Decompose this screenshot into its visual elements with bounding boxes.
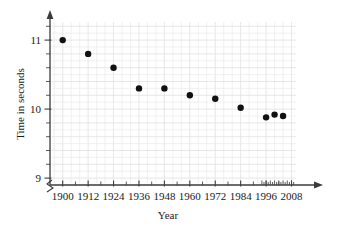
y-axis-tick-label: 11 <box>30 34 41 46</box>
data-point <box>237 105 243 111</box>
data-point <box>263 114 269 120</box>
x-axis-tick-label: 1936 <box>128 190 151 202</box>
data-point <box>60 37 66 43</box>
data-point <box>85 51 91 57</box>
x-axis-arrow-icon <box>314 182 323 189</box>
x-axis-tick-label: 1972 <box>204 190 226 202</box>
data-point <box>280 113 286 119</box>
data-point <box>212 96 218 102</box>
x-axis-tick-label: 1960 <box>179 190 202 202</box>
data-point <box>136 85 142 91</box>
y-axis-arrow-icon <box>47 10 54 19</box>
data-point <box>110 64 116 70</box>
scatter-plot: 9101119001912192419361948196019721984199… <box>0 0 342 230</box>
x-axis-tick-label: 1900 <box>52 190 75 202</box>
tick-marks-group <box>45 26 294 186</box>
x-axis-tick-label: 1948 <box>153 190 176 202</box>
x-axis-tick-label: 1984 <box>230 190 253 202</box>
data-point <box>161 85 167 91</box>
x-axis-title: Year <box>158 209 179 221</box>
y-axis-tick-label: 10 <box>30 103 42 115</box>
data-point <box>187 92 193 98</box>
gridlines-group <box>52 22 296 183</box>
y-axis-tick-label: 9 <box>36 172 42 184</box>
x-axis-tick-label: 2008 <box>281 190 304 202</box>
x-axis-tick-label: 1924 <box>103 190 126 202</box>
y-axis-title: Time in seconds <box>14 68 26 140</box>
data-point <box>271 111 277 117</box>
x-axis-tick-label: 1996 <box>255 190 278 202</box>
x-axis-tick-label: 1912 <box>77 190 99 202</box>
chart-container: 9101119001912192419361948196019721984199… <box>0 0 342 230</box>
